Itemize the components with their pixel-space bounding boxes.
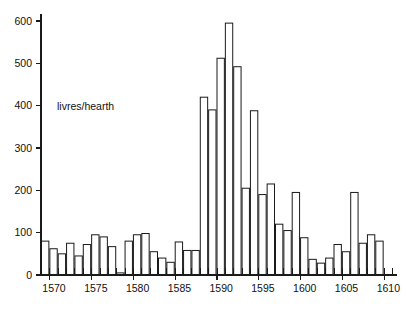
x-tick-label: 1600	[293, 282, 317, 294]
bar	[342, 252, 349, 275]
bar	[359, 243, 366, 275]
bar	[175, 242, 182, 275]
axis-unit-annotation: livres/hearth	[57, 100, 114, 112]
bar	[225, 23, 232, 275]
bar	[267, 184, 274, 275]
bar	[159, 258, 166, 275]
bar	[334, 245, 341, 275]
x-tick-label: 1605	[335, 282, 359, 294]
bar	[276, 224, 283, 275]
bar	[351, 192, 358, 275]
bar	[83, 245, 90, 275]
bar	[376, 241, 383, 275]
x-tick-label: 1610	[377, 282, 401, 294]
bar-series	[42, 23, 384, 275]
y-tick-label: 0	[26, 269, 32, 281]
bar	[75, 256, 82, 275]
bar	[259, 195, 266, 275]
bar	[58, 254, 65, 275]
bar	[108, 247, 115, 275]
bar	[234, 67, 241, 275]
bar	[42, 241, 49, 275]
y-tick-label: 100	[14, 226, 32, 238]
x-tick-label: 1580	[126, 282, 150, 294]
x-tick-label: 1575	[84, 282, 108, 294]
bar	[292, 192, 299, 275]
y-tick-label: 400	[14, 99, 32, 111]
bar	[142, 234, 149, 275]
bar	[92, 235, 99, 275]
chart-plot-area: 0100200300400500600157015751580158515901…	[0, 0, 406, 312]
bar	[242, 188, 249, 275]
x-tick-label: 1585	[168, 282, 192, 294]
bar	[250, 111, 257, 275]
bar	[200, 97, 207, 275]
bar	[217, 58, 224, 275]
bar-chart-figure: 0100200300400500600157015751580158515901…	[0, 0, 406, 312]
bar	[184, 250, 191, 275]
y-tick-label: 600	[14, 15, 32, 27]
bar	[367, 235, 374, 275]
y-tick-label: 300	[14, 142, 32, 154]
y-axis-ticks: 0100200300400500600	[14, 15, 41, 281]
bar	[67, 243, 74, 275]
bar	[100, 237, 107, 275]
bar	[309, 259, 316, 275]
y-tick-label: 200	[14, 184, 32, 196]
bar	[209, 110, 216, 275]
bar	[150, 252, 157, 275]
bar	[133, 235, 140, 275]
bar	[125, 241, 132, 275]
x-tick-label: 1570	[42, 282, 66, 294]
bar	[301, 238, 308, 275]
bar	[317, 263, 324, 275]
bar	[284, 231, 291, 275]
x-axis-ticks: 157015751580158515901595160016051610	[42, 275, 400, 294]
bar	[50, 249, 57, 275]
x-tick-label: 1595	[251, 282, 275, 294]
x-tick-label: 1590	[209, 282, 233, 294]
bar	[192, 250, 199, 275]
bar	[326, 258, 333, 275]
bar	[167, 262, 174, 275]
y-tick-label: 500	[14, 57, 32, 69]
